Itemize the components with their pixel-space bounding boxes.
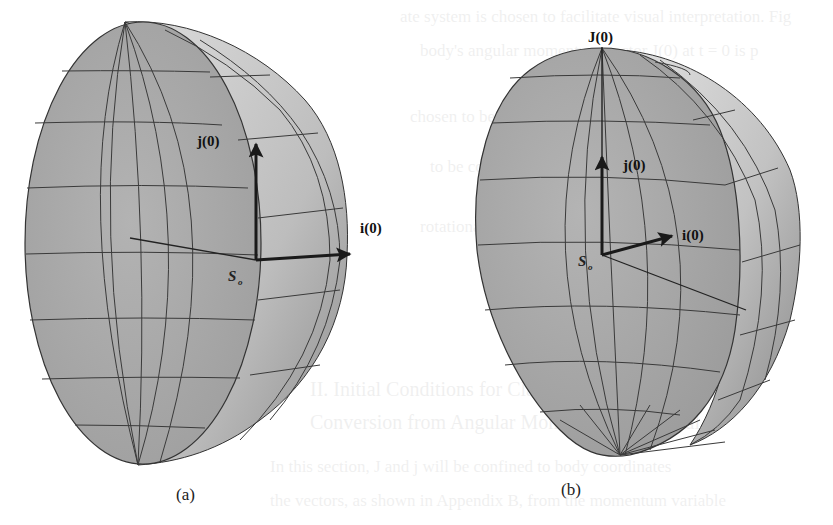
panel-a: j(0) i(0) S o (a) bbox=[25, 22, 382, 504]
origin-subscript: o bbox=[588, 262, 593, 272]
body-front-face bbox=[25, 22, 261, 464]
origin-label: S bbox=[228, 268, 236, 284]
origin-subscript: o bbox=[238, 277, 243, 287]
panel-caption-a: (a) bbox=[176, 485, 195, 504]
panel-caption-b: (b) bbox=[561, 480, 581, 499]
J-vector-label: J(0) bbox=[588, 29, 613, 46]
figure: j(0) i(0) S o (a) bbox=[0, 0, 833, 525]
i-vector-label: i(0) bbox=[360, 220, 382, 237]
j-vector-label: j(0) bbox=[196, 133, 220, 150]
origin-label: S bbox=[578, 253, 586, 269]
j-vector-label: j(0) bbox=[622, 157, 646, 174]
panel-b: J(0) j(0) i(0) S o (b) bbox=[476, 29, 801, 499]
i-vector-label: i(0) bbox=[682, 227, 704, 244]
